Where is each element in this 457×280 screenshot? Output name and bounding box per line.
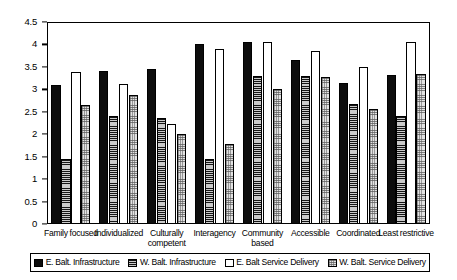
legend-item: E. Balt. Infrastructure [34,258,119,267]
y-axis-tick-label: 2 [32,129,37,139]
bar-group [95,22,143,224]
bar-group [382,22,430,224]
bar [71,72,80,224]
bar [167,124,176,224]
bar [195,44,204,224]
bar [99,71,108,224]
bar [387,75,396,224]
bar [406,42,415,224]
bar [396,116,405,224]
legend-item: W. Balt. Service Delivery [328,258,426,267]
bar [273,89,282,224]
bar [369,109,378,224]
bar [129,95,138,224]
bar [147,69,156,224]
legend-label: W. Balt. Infrastructure [140,258,216,267]
bar-group [47,22,95,224]
bar-group [143,22,191,224]
y-axis-tick-label: 1 [32,174,37,184]
bar [177,134,186,224]
bar [416,74,425,224]
bar [119,84,128,225]
legend-item: W. Balt. Infrastructure [128,258,215,267]
legend-label: W. Balt. Service Delivery [339,258,426,267]
y-axis: 4.543.532.521.510.50 [0,22,47,224]
bar [109,116,118,224]
bar [263,42,272,224]
bar [205,159,214,224]
bar [225,144,234,224]
x-axis-category-label: Least restrictive [378,228,434,238]
legend-swatch-icon [34,259,43,267]
y-axis-tick-label: 0.5 [24,197,37,207]
bar-group [191,22,239,224]
bar [311,51,320,224]
x-axis-category-labels: Family focusedIndividualizedCulturally c… [47,228,430,254]
bar [339,83,348,224]
y-axis-tick-label: 3 [32,85,37,95]
bar [81,105,90,224]
y-axis-tick-label: 3.5 [24,62,37,72]
legend-label: E. Balt. Infrastructure [46,258,120,267]
y-axis-tick-label: 1.5 [24,152,37,162]
bar [321,77,330,224]
bar [51,85,60,224]
bar [215,49,224,224]
bar [243,42,252,224]
legend-label: E. Balt Service Delivery [236,258,319,267]
bar [349,104,358,224]
bar [157,118,166,224]
chart-legend: E. Balt. InfrastructureW. Balt. Infrastr… [30,253,430,272]
bar [253,76,262,224]
bar [359,67,368,224]
bar-group [239,22,287,224]
legend-item: E. Balt Service Delivery [225,258,319,267]
bar-chart: 4.543.532.521.510.50 Family focusedIndiv… [0,0,457,280]
y-axis-tick-label: 4.5 [24,17,37,27]
bar-group [334,22,382,224]
bar [301,76,310,224]
legend-swatch-icon [225,259,234,267]
legend-swatch-icon [328,259,337,267]
y-axis-tick-label: 2.5 [24,107,37,117]
y-axis-tick-label: 0 [32,219,37,229]
bar-group [286,22,334,224]
legend-swatch-icon [128,259,137,267]
bar [291,60,300,224]
y-axis-tick-label: 4 [32,40,37,50]
bars-layer [47,22,430,224]
bar [61,159,70,224]
